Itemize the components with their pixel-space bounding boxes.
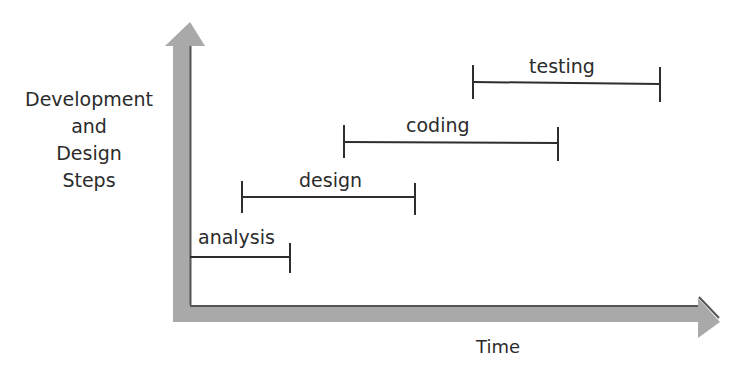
y-axis-label-line: Development <box>0 86 178 113</box>
phase-label-testing: testing <box>529 55 595 77</box>
y-axis-label-line: Design <box>0 140 178 167</box>
y-axis-label-line: Steps <box>0 167 178 194</box>
y-axis-label: Development and Design Steps <box>0 86 178 194</box>
phase-label-analysis: analysis <box>198 226 275 248</box>
phase-label-coding: coding <box>406 114 470 136</box>
y-axis-label-line: and <box>0 113 178 140</box>
x-axis-label: Time <box>476 336 520 357</box>
x-axis-arrow <box>173 297 720 338</box>
phase-label-design: design <box>299 169 362 191</box>
